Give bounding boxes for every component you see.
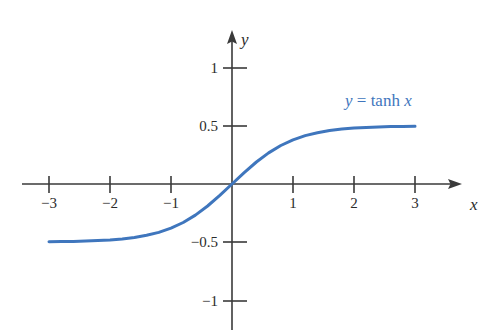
curve-label-function: tanh <box>371 91 400 110</box>
x-tick-label--3: −3 <box>41 196 57 211</box>
x-tick-label-1: 1 <box>289 196 297 211</box>
curve-label-equals: = <box>357 91 367 110</box>
x-tick-label-3: 3 <box>411 196 419 211</box>
y-axis-label: y <box>241 31 249 48</box>
y-tick-label-1: 1 <box>158 61 218 76</box>
x-axis-label: x <box>470 196 478 213</box>
curve-label-x: x <box>404 91 412 110</box>
y-tick-label-0.5: 0.5 <box>158 119 218 134</box>
plot-canvas <box>0 0 495 335</box>
y-tick-label--1: −1 <box>158 294 218 309</box>
x-tick-label--1: −1 <box>163 196 179 211</box>
y-tick-label--0.5: −0.5 <box>158 235 218 250</box>
curve-equation-label: y = tanh x <box>345 92 412 109</box>
tanh-graph-figure: −3 −2 −1 1 2 3 1 0.5 −0.5 −1 y x y = tan… <box>0 0 495 335</box>
x-tick-label-2: 2 <box>350 196 358 211</box>
x-tick-label--2: −2 <box>102 196 118 211</box>
curve-label-y: y <box>345 91 353 110</box>
